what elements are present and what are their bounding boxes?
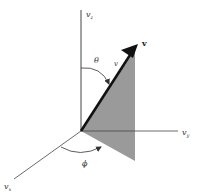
vector-head-label: v	[141, 38, 147, 48]
x-axis	[14, 131, 81, 179]
theta-label: θ	[94, 56, 99, 65]
theta-arc	[81, 68, 109, 84]
y-axis-label: vy	[182, 128, 190, 139]
phi-label: ϕ	[82, 159, 88, 168]
x-axis-label: vx	[4, 182, 12, 192]
phi-arc	[61, 147, 101, 153]
spherical-coordinates-diagram: vz v θ v vy ϕ vx	[0, 0, 200, 196]
vector-magnitude-label: v	[114, 60, 118, 68]
z-axis-label: vz	[86, 10, 94, 20]
projection-plane	[81, 50, 135, 161]
